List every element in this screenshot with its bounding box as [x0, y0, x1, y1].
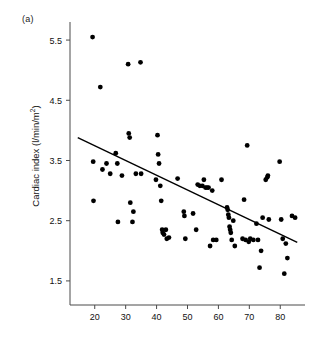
- x-tick-label: 60: [213, 312, 223, 322]
- data-point: [260, 215, 265, 220]
- x-tick-label: 80: [275, 312, 285, 322]
- data-point: [113, 151, 118, 156]
- data-point: [283, 241, 288, 246]
- y-tick-label: 5.5: [49, 36, 62, 46]
- data-point: [116, 220, 121, 225]
- y-tick-label: 1.5: [49, 276, 62, 286]
- x-tick-label: 70: [244, 312, 254, 322]
- data-point: [130, 220, 135, 225]
- data-point: [191, 211, 196, 216]
- data-point: [91, 159, 96, 164]
- data-point: [257, 265, 262, 270]
- data-point: [277, 159, 282, 164]
- data-point: [266, 217, 271, 222]
- x-tick-label: 40: [152, 312, 162, 322]
- data-point: [229, 238, 234, 243]
- data-point: [133, 171, 138, 176]
- data-point: [254, 221, 259, 226]
- data-point: [285, 256, 290, 261]
- data-point: [167, 235, 172, 240]
- data-point: [280, 236, 285, 241]
- data-point: [219, 177, 224, 182]
- data-point: [98, 85, 103, 90]
- data-point: [232, 244, 237, 249]
- data-point: [228, 230, 233, 235]
- data-point: [242, 197, 247, 202]
- data-point: [90, 35, 95, 40]
- y-tick-label: 3.5: [49, 156, 62, 166]
- data-point: [108, 171, 113, 176]
- data-point: [245, 143, 250, 148]
- data-point: [265, 173, 270, 178]
- data-point: [159, 198, 164, 203]
- data-point: [201, 177, 206, 182]
- data-point: [138, 60, 143, 65]
- data-point: [182, 213, 187, 218]
- data-point: [126, 62, 131, 67]
- y-tick-label: 4.5: [49, 96, 62, 106]
- data-point: [293, 215, 298, 220]
- data-point: [155, 133, 160, 138]
- data-point: [162, 232, 167, 237]
- data-point: [282, 271, 287, 276]
- data-point: [175, 176, 180, 181]
- data-point: [115, 161, 120, 166]
- scatter-plot: 1.52.53.54.55.520304050607080: [0, 0, 317, 337]
- data-point: [256, 238, 261, 243]
- data-point: [156, 152, 161, 157]
- data-point: [127, 135, 132, 140]
- data-point: [120, 173, 125, 178]
- regression-line: [78, 138, 298, 243]
- data-point: [181, 209, 186, 214]
- data-point: [279, 217, 284, 222]
- data-point: [214, 238, 219, 243]
- data-point: [227, 215, 232, 220]
- data-point: [231, 218, 236, 223]
- x-tick-label: 50: [182, 312, 192, 322]
- x-tick-label: 30: [121, 312, 131, 322]
- data-point: [163, 227, 168, 232]
- data-point: [194, 227, 199, 232]
- data-point: [259, 248, 264, 253]
- data-point: [157, 161, 162, 166]
- data-point: [100, 167, 105, 172]
- data-point: [154, 177, 159, 182]
- figure-panel-a: (a) Cardiac index (l/min/m2) 1.52.53.54.…: [0, 0, 317, 337]
- data-point: [91, 198, 96, 203]
- data-point: [183, 236, 188, 241]
- data-point: [131, 209, 136, 214]
- data-point: [208, 244, 213, 249]
- data-point: [104, 161, 109, 166]
- y-tick-label: 2.5: [49, 216, 62, 226]
- data-point: [206, 185, 211, 190]
- data-point: [158, 183, 163, 188]
- data-point: [210, 188, 215, 193]
- data-point: [251, 238, 256, 243]
- data-point: [225, 207, 230, 212]
- data-point: [128, 200, 133, 205]
- data-point: [139, 171, 144, 176]
- data-point: [126, 131, 131, 136]
- x-tick-label: 20: [90, 312, 100, 322]
